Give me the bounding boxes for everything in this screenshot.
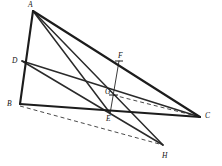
segment-F-E — [110, 61, 119, 114]
point-label-G: G — [105, 88, 110, 96]
geometry-canvas — [0, 0, 222, 166]
segment-A-C — [33, 11, 200, 117]
segment-D-H — [22, 61, 163, 145]
point-label-C: C — [205, 112, 210, 120]
point-label-F: F — [118, 52, 123, 60]
point-label-H: H — [162, 152, 167, 160]
point-label-D: D — [12, 57, 17, 65]
point-label-A: A — [28, 1, 33, 9]
geometry-figure: A D B F G E C H — [0, 0, 222, 166]
segment-A-B — [20, 11, 33, 104]
segment-A-H — [33, 11, 163, 145]
point-label-B: B — [7, 100, 12, 108]
segment-A-E — [33, 11, 110, 113]
point-label-E: E — [106, 115, 111, 123]
